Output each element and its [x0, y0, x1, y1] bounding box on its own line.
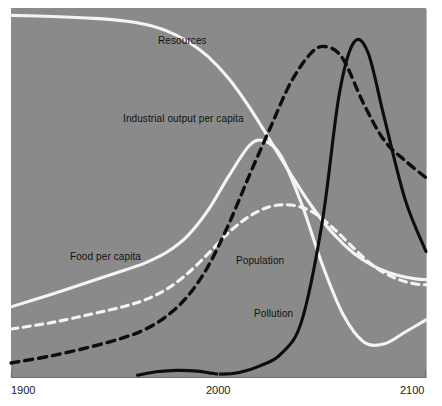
x-tick-label-2000: 2000 — [206, 384, 230, 396]
chart-svg — [0, 0, 442, 406]
world3-standard-run-chart: Resources Industrial output per capita F… — [0, 0, 442, 406]
series-label-pollution: Pollution — [254, 308, 293, 319]
series-label-resources: Resources — [158, 35, 207, 46]
curve-resources — [11, 15, 426, 279]
curve-pollution — [138, 39, 426, 375]
series-curves — [11, 15, 426, 375]
curve-population — [11, 205, 426, 329]
series-label-food-per-capita: Food per capita — [70, 251, 141, 262]
x-axis — [11, 371, 426, 378]
series-label-population: Population — [236, 255, 284, 266]
x-tick-label-1900: 1900 — [11, 384, 35, 396]
curve-industrial-output — [11, 46, 426, 363]
x-tick-label-2100: 2100 — [400, 384, 424, 396]
series-label-industrial-output: Industrial output per capita — [123, 113, 244, 124]
